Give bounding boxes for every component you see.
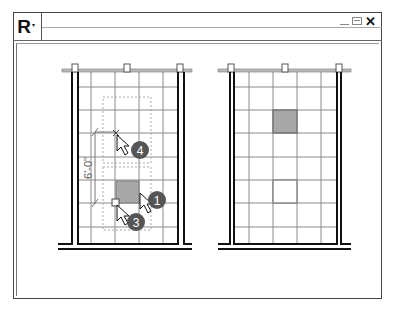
right-ceiling-plan bbox=[218, 64, 351, 249]
dashed-guides bbox=[103, 97, 151, 230]
empty-tile-slot bbox=[273, 180, 297, 203]
drawing-area: 6'-0" 4 1 3 bbox=[0, 0, 396, 309]
beam-clip bbox=[336, 64, 342, 72]
ceiling-tile[interactable] bbox=[273, 110, 297, 133]
snap-marker-3 bbox=[112, 199, 119, 206]
callout-1: 1 bbox=[148, 191, 166, 209]
left-ceiling-plan: 6'-0" 4 1 3 bbox=[58, 64, 192, 249]
svg-text:3: 3 bbox=[133, 216, 140, 230]
svg-text:4: 4 bbox=[137, 144, 144, 158]
dimension-label: 6'-0" bbox=[82, 157, 94, 179]
beam-clip bbox=[177, 64, 183, 72]
beam-clip bbox=[72, 64, 78, 72]
walls bbox=[218, 72, 351, 249]
callout-3: 3 bbox=[127, 213, 145, 231]
callout-4: 4 bbox=[131, 141, 149, 159]
beam-clip bbox=[228, 64, 234, 72]
svg-text:1: 1 bbox=[154, 194, 161, 208]
beam-clip bbox=[124, 64, 130, 72]
beam-clip bbox=[282, 64, 288, 72]
grid-lines bbox=[234, 70, 337, 244]
